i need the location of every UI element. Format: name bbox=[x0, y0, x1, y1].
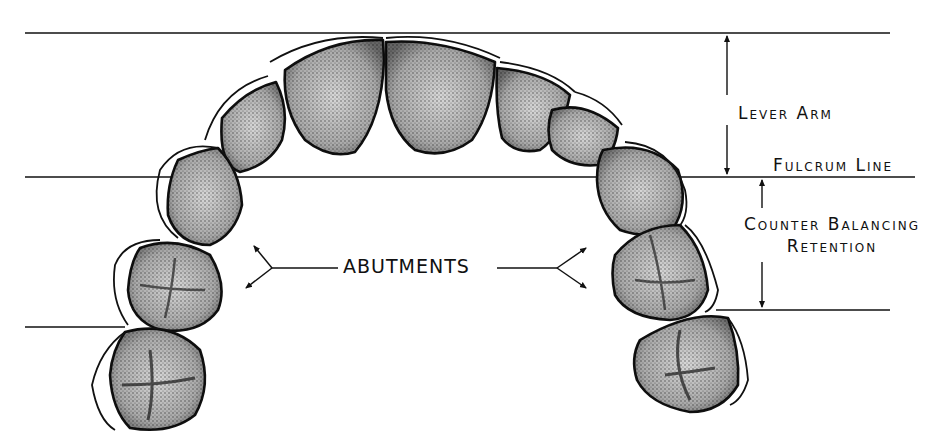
retention-text: Retention bbox=[744, 235, 920, 257]
counter-balancing-retention-label: Counter Balancing Retention bbox=[744, 213, 920, 257]
tooth-premolar-left bbox=[114, 240, 222, 331]
tooth-molar-right bbox=[634, 316, 748, 412]
fulcrum-line-label: Fulcrum Line bbox=[773, 155, 893, 175]
tooth-central-incisor-left bbox=[270, 37, 384, 154]
dental-arch bbox=[92, 37, 748, 430]
lever-arm-label: Lever Arm bbox=[738, 103, 833, 123]
tooth-molar-left bbox=[92, 329, 205, 430]
tooth-central-incisor-right bbox=[386, 37, 500, 153]
abutments-label: ABUTMENTS bbox=[343, 255, 470, 277]
tooth-canine-left bbox=[157, 146, 242, 245]
tooth-canine-right bbox=[597, 142, 686, 235]
counter-balancing-text: Counter Balancing bbox=[744, 213, 920, 235]
tooth-premolar-right bbox=[613, 225, 719, 320]
